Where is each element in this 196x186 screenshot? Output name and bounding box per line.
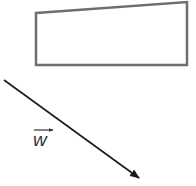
diagram-canvas xyxy=(0,0,196,186)
vector-w-arrow xyxy=(4,80,139,178)
vector-w-label: w xyxy=(31,126,55,150)
trapezoid-shape xyxy=(36,2,187,65)
vector-w-letter: w xyxy=(33,130,47,149)
